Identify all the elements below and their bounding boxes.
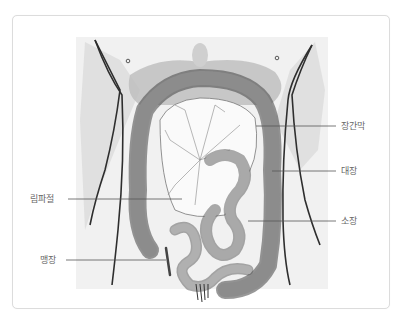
abdomen-illustration xyxy=(0,0,400,323)
label-lymph-node: 림파절 xyxy=(30,194,54,204)
label-mesentery: 장간막 xyxy=(341,121,365,131)
label-appendix: 맹장 xyxy=(40,255,56,265)
sternum-shade-icon xyxy=(192,43,208,67)
label-small-intestine: 소장 xyxy=(341,216,357,226)
label-large-intestine: 대장 xyxy=(341,166,357,176)
